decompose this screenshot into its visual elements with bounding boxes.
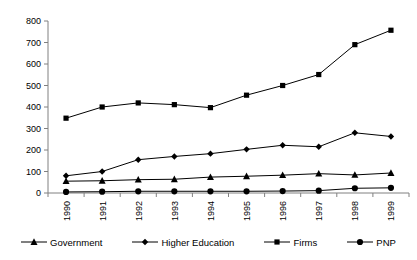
legend-marker-triangle-icon <box>21 236 47 248</box>
data-point <box>207 188 213 194</box>
series-higher-education <box>63 130 394 179</box>
x-tick-label: 1996 <box>278 201 288 221</box>
x-tick-label: 1992 <box>134 201 144 221</box>
legend-label: Higher Education <box>161 237 234 248</box>
data-point <box>135 156 141 162</box>
data-point <box>243 146 249 152</box>
x-tick-label: 1995 <box>242 201 252 221</box>
legend-marker-square-icon <box>264 236 290 248</box>
data-point <box>63 189 69 195</box>
legend-label: PNP <box>376 237 396 248</box>
data-point <box>280 83 285 88</box>
y-axis-tick-labels: 0100200300400500600700800 <box>26 16 41 198</box>
data-point <box>100 104 105 109</box>
legend-marker-circle-icon <box>347 236 373 248</box>
x-tick-label: 1991 <box>98 201 108 221</box>
data-point <box>99 189 105 195</box>
data-point <box>207 150 213 156</box>
data-point <box>172 102 177 107</box>
x-tick-label: 1993 <box>170 201 180 221</box>
legend-label: Government <box>50 237 102 248</box>
y-tick-label: 100 <box>26 167 41 177</box>
y-tick-label: 0 <box>36 188 41 198</box>
y-tick-label: 800 <box>26 16 41 26</box>
legend-marker-diamond-icon <box>132 236 158 248</box>
data-point <box>280 188 286 194</box>
data-point <box>316 144 322 150</box>
y-tick-label: 600 <box>26 59 41 69</box>
y-tick-label: 300 <box>26 124 41 134</box>
legend-item-higher-education[interactable]: Higher Education <box>132 236 234 248</box>
data-point <box>171 153 177 159</box>
data-point <box>136 100 141 105</box>
data-point <box>352 130 358 136</box>
chart-plot-area: 0100200300400500600700800 19901991199219… <box>0 0 417 260</box>
data-point <box>63 173 69 179</box>
data-point <box>243 188 249 194</box>
legend-item-pnp[interactable]: PNP <box>347 236 396 248</box>
x-tick-label: 1994 <box>206 201 216 221</box>
data-point <box>279 142 285 148</box>
x-axis-tick-labels: 1990199119921993199419951996199719981999 <box>62 201 397 221</box>
data-point <box>388 28 393 33</box>
legend-label: Firms <box>293 237 317 248</box>
y-tick-label: 400 <box>26 102 41 112</box>
data-point <box>316 72 321 77</box>
chart-axes <box>44 21 409 197</box>
legend-item-firms[interactable]: Firms <box>264 236 317 248</box>
x-tick-label: 1999 <box>386 201 396 221</box>
data-point <box>387 169 394 176</box>
data-point <box>99 168 105 174</box>
y-tick-label: 700 <box>26 38 41 48</box>
series-firms <box>63 28 393 121</box>
x-tick-label: 1998 <box>350 201 360 221</box>
chart-series <box>63 28 395 195</box>
y-tick-label: 200 <box>26 145 41 155</box>
data-point <box>388 133 394 139</box>
data-point <box>171 188 177 194</box>
data-point <box>352 42 357 47</box>
y-tick-label: 500 <box>26 81 41 91</box>
data-point <box>135 188 141 194</box>
data-point <box>208 105 213 110</box>
data-point <box>63 116 68 121</box>
data-point <box>244 93 249 98</box>
chart-legend: GovernmentHigher EducationFirmsPNP <box>0 228 417 256</box>
x-tick-label: 1990 <box>62 201 72 221</box>
data-point <box>352 185 358 191</box>
data-point <box>316 188 322 194</box>
series-government <box>63 169 395 184</box>
legend-item-government[interactable]: Government <box>21 236 102 248</box>
line-chart: 0100200300400500600700800 19901991199219… <box>0 0 417 260</box>
data-point <box>388 185 394 191</box>
x-tick-label: 1997 <box>314 201 324 221</box>
